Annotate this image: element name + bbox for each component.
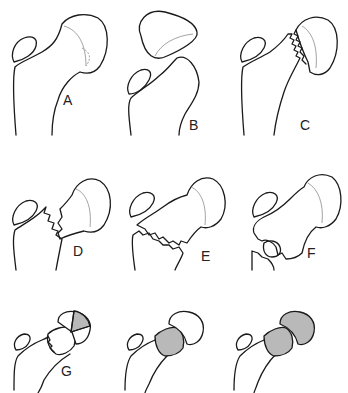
panel-label-a: A <box>63 92 72 108</box>
panel-label-b: B <box>189 117 198 133</box>
femur-neck-outline <box>241 34 300 135</box>
panel-g2-diagram <box>115 270 231 393</box>
greater-trochanter-outline <box>12 37 36 62</box>
greater-trochanter-outline <box>13 200 38 225</box>
greater-trochanter-outline <box>241 37 266 62</box>
panel-g-diagram <box>0 270 116 393</box>
panel-label-f: F <box>307 245 316 261</box>
femur-distal-outline <box>13 207 62 270</box>
physeal-line <box>308 183 322 223</box>
panel-e-diagram <box>115 135 231 270</box>
physeal-line <box>76 189 90 227</box>
panel-label-e: E <box>201 248 210 264</box>
panel-b-diagram <box>115 0 231 135</box>
femur-outline <box>13 15 107 135</box>
greater-trochanter-outline <box>128 69 151 94</box>
shaded-neck-segment <box>155 327 184 356</box>
panel-d-diagram <box>0 135 116 270</box>
head-neck-fragment-outline <box>58 179 110 239</box>
panel-label-g: G <box>61 363 72 379</box>
panel-label-d: D <box>73 243 83 259</box>
panel-g3-diagram <box>228 270 348 393</box>
distal-shaft-outline <box>252 251 274 270</box>
physeal-line <box>64 26 86 66</box>
panel-c-diagram <box>228 0 348 135</box>
shaded-neck-segment <box>264 327 293 356</box>
panel-f-diagram <box>228 135 348 270</box>
panel-label-c: C <box>300 117 310 133</box>
panel-a-diagram <box>0 0 116 135</box>
greater-trochanter-outline <box>253 192 278 217</box>
physeal-line <box>191 187 205 225</box>
greater-trochanter-outline <box>130 192 155 217</box>
proximal-femur-outline <box>253 175 340 259</box>
